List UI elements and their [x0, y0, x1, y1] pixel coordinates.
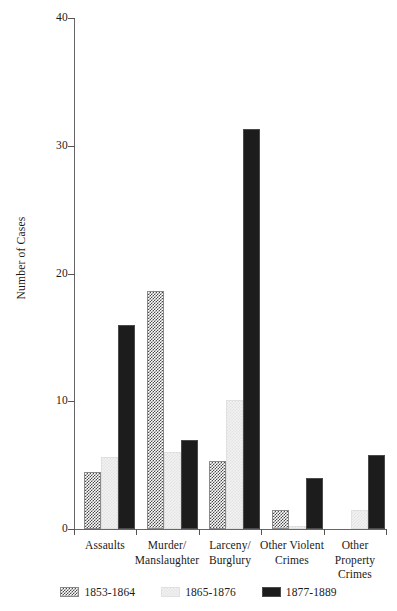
y-axis-title: Number of Cases	[15, 198, 27, 318]
bar-other-violent-1877-1889	[306, 478, 323, 529]
x-tick-group-4	[324, 529, 325, 535]
bar-larceny-1877-1889	[243, 129, 260, 529]
x-tick-group-1	[136, 529, 137, 535]
x-tick-end	[386, 529, 387, 535]
legend-swatch-icon-1853-1864	[60, 587, 79, 597]
y-tick-label-40: 40	[28, 12, 68, 23]
bar-chart: Number of Cases 0 10 20 30 40	[0, 0, 397, 611]
bar-other-property-1865-1876	[351, 510, 368, 529]
legend-label-1853-1864: 1853-1864	[84, 586, 135, 598]
chart-legend: 1853-1864 1865-1876 1877-1889	[0, 586, 397, 598]
x-label-other-property-line2: Property	[315, 553, 395, 568]
bar-murder-1865-1876	[164, 452, 181, 529]
bar-murder-1877-1889	[181, 440, 198, 529]
legend-item-1877-1889: 1877-1889	[262, 586, 337, 598]
x-label-other-property-line1: Other	[315, 538, 395, 553]
x-label-other-property: Other Property Crimes	[315, 538, 395, 582]
bar-other-property-1877-1889	[368, 455, 385, 529]
y-tick-label-0: 0	[28, 523, 68, 534]
x-tick-group-3	[261, 529, 262, 535]
legend-swatch-icon-1877-1889	[262, 587, 281, 597]
bar-murder-1853-1864	[147, 291, 164, 529]
bar-assaults-1853-1864	[84, 472, 101, 529]
bar-other-violent-1853-1864	[272, 510, 289, 529]
legend-swatch-icon-1865-1876	[161, 587, 180, 597]
x-label-other-property-line3: Crimes	[315, 567, 395, 582]
legend-label-1877-1889: 1877-1889	[286, 586, 337, 598]
bar-assaults-1865-1876	[101, 457, 118, 529]
legend-item-1865-1876: 1865-1876	[161, 586, 236, 598]
bar-larceny-1865-1876	[226, 400, 243, 529]
y-tick-label-30: 30	[28, 140, 68, 151]
legend-label-1865-1876: 1865-1876	[185, 586, 236, 598]
plot-area	[74, 18, 386, 529]
legend-item-1853-1864: 1853-1864	[60, 586, 135, 598]
bar-other-violent-1865-1876	[289, 526, 306, 529]
y-tick-label-20: 20	[28, 268, 68, 279]
x-tick-group-2	[199, 529, 200, 535]
x-tick-start	[74, 529, 75, 535]
y-tick-label-10: 10	[28, 395, 68, 406]
bar-assaults-1877-1889	[118, 325, 135, 529]
bar-larceny-1853-1864	[209, 461, 226, 529]
x-axis-line	[74, 529, 386, 530]
